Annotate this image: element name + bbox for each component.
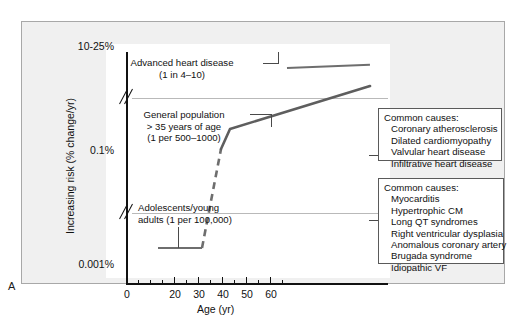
panel-letter: A bbox=[8, 280, 16, 292]
x-axis-title: Age (yr) bbox=[197, 303, 234, 315]
annotation-adolescents-line2: adults (1 per 100,000) bbox=[138, 214, 288, 226]
causes-item: Idiopathic VF bbox=[391, 262, 498, 273]
causes-item: Brugada syndrome bbox=[391, 250, 498, 261]
annotation-advanced-heart-disease: Advanced heart disease (1 in 4–10) bbox=[102, 57, 262, 80]
causes-item: Dilated cardiomyopathy bbox=[391, 135, 496, 146]
causes-item: Right ventricular dysplasia bbox=[391, 228, 498, 239]
causes-box-young-adults-title: Common causes: bbox=[384, 182, 498, 193]
x-tick-label-0: 0 bbox=[112, 288, 142, 300]
leader-adolescents-vertical bbox=[178, 227, 179, 248]
causes-item: Hypertrophic CM bbox=[391, 205, 498, 216]
causes-item: Anomalous coronary artery bbox=[391, 239, 498, 250]
causes-box-advanced-list: Coronary atherosclerosis Dilated cardiom… bbox=[384, 123, 496, 169]
causes-item: Infiltrative heart disease bbox=[391, 158, 496, 169]
leader-general-vertical bbox=[271, 114, 272, 127]
causes-item: Myocarditis bbox=[391, 193, 498, 204]
annotation-adolescents-young-adults: Adolescents/young adults (1 per 100,000) bbox=[138, 202, 288, 225]
annotation-advanced-line2: (1 in 4–10) bbox=[102, 69, 262, 81]
annotation-advanced-line1: Advanced heart disease bbox=[102, 57, 262, 69]
causes-box-young-adults-list: Myocarditis Hypertrophic CM Long QT synd… bbox=[384, 193, 498, 273]
annotation-general-population: General population > 35 years of age (1 … bbox=[114, 109, 254, 144]
annotation-general-line3: (1 per 500–1000) bbox=[114, 132, 254, 144]
annotation-general-line2: > 35 years of age bbox=[114, 121, 254, 133]
causes-box-advanced: Common causes: Coronary atherosclerosis … bbox=[378, 108, 502, 161]
leader-advanced-horizontal bbox=[263, 63, 279, 64]
leader-general-horizontal bbox=[250, 114, 272, 115]
annotation-general-line1: General population bbox=[114, 109, 254, 121]
figure-panel: 10-25% 0.1% 0.001% Increasing risk (% ch… bbox=[21, 21, 505, 284]
causes-box-young-adults: Common causes: Myocarditis Hypertrophic … bbox=[378, 178, 504, 264]
causes-box-advanced-title: Common causes: bbox=[384, 112, 496, 123]
causes-item: Long QT syndromes bbox=[391, 216, 498, 227]
x-tick-label-60: 60 bbox=[256, 288, 286, 300]
leader-advanced-vertical bbox=[278, 52, 279, 64]
causes-item: Coronary atherosclerosis bbox=[391, 123, 496, 134]
causes-item: Valvular heart disease bbox=[391, 146, 496, 157]
annotation-adolescents-line1: Adolescents/young bbox=[138, 202, 288, 214]
